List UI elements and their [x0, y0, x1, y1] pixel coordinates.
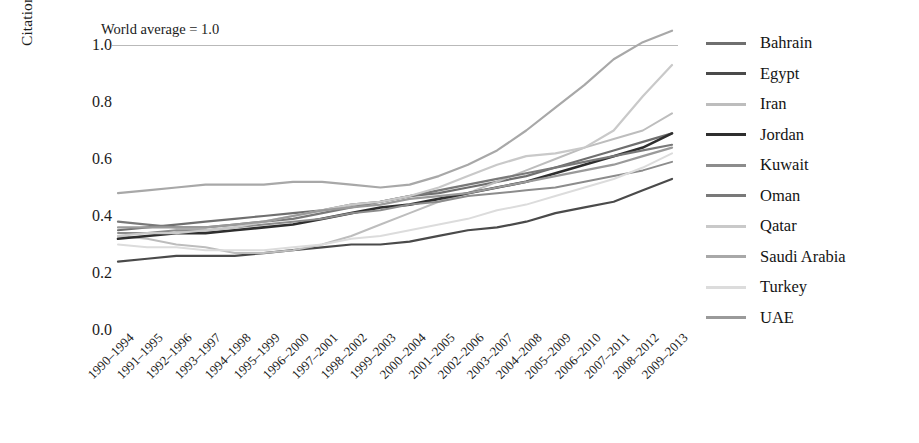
legend-swatch — [706, 286, 746, 289]
series-lines — [118, 45, 672, 330]
world-average-annotation: World average = 1.0 — [101, 21, 219, 38]
legend-label: UAE — [760, 310, 794, 327]
series-line-uae — [118, 148, 672, 228]
legend-item-jordan[interactable]: Jordan — [706, 120, 911, 151]
legend-item-saudi-arabia[interactable]: Saudi Arabia — [706, 242, 911, 273]
legend-item-uae[interactable]: UAE — [706, 303, 911, 334]
legend-label: Bahrain — [760, 35, 812, 52]
series-line-qatar — [118, 65, 672, 236]
legend-label: Iran — [760, 96, 787, 113]
y-tick-label: 0.6 — [70, 151, 112, 167]
legend-item-bahrain[interactable]: Bahrain — [706, 28, 911, 59]
legend-swatch — [706, 103, 746, 106]
y-tick-label: 0.4 — [70, 208, 112, 224]
y-tick-label: 0.2 — [70, 265, 112, 281]
y-axis-tick-labels: 0.00.20.40.60.81.0 — [62, 0, 112, 360]
legend-item-iran[interactable]: Iran — [706, 89, 911, 120]
legend-label: Saudi Arabia — [760, 249, 846, 266]
y-axis-title-container: Citation impact relative to world — [20, 8, 46, 328]
legend-label: Egypt — [760, 66, 799, 83]
legend-label: Kuwait — [760, 157, 809, 174]
plot-area — [118, 45, 672, 330]
legend-label: Oman — [760, 188, 800, 205]
legend: BahrainEgyptIranJordanKuwaitOmanQatarSau… — [706, 28, 911, 333]
legend-label: Turkey — [760, 279, 807, 296]
legend-swatch — [706, 255, 746, 258]
legend-item-kuwait[interactable]: Kuwait — [706, 150, 911, 181]
legend-swatch — [706, 225, 746, 228]
y-axis-title: Citation impact relative to world — [18, 0, 40, 46]
y-tick-label: 1.0 — [70, 37, 112, 53]
x-axis-tick-labels: 1990–19941991–19951992–19961993–19971994… — [0, 330, 700, 443]
legend-swatch — [706, 316, 746, 319]
legend-item-qatar[interactable]: Qatar — [706, 211, 911, 242]
y-tick-label: 0.8 — [70, 94, 112, 110]
legend-swatch — [706, 194, 746, 197]
legend-label: Jordan — [760, 127, 804, 144]
legend-swatch — [706, 72, 746, 75]
legend-item-egypt[interactable]: Egypt — [706, 59, 911, 90]
legend-label: Qatar — [760, 218, 797, 235]
legend-item-turkey[interactable]: Turkey — [706, 272, 911, 303]
legend-swatch — [706, 164, 746, 167]
legend-item-oman[interactable]: Oman — [706, 181, 911, 212]
legend-swatch — [706, 133, 746, 136]
citation-impact-line-chart: Citation impact relative to world 0.00.2… — [0, 0, 919, 443]
legend-swatch — [706, 42, 746, 45]
